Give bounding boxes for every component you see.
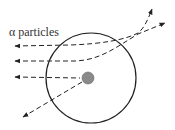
trajectory-backscatter-in — [15, 77, 80, 78]
rutherford-diagram — [0, 0, 175, 130]
trajectory-backscatter-out — [23, 82, 82, 117]
nucleus — [82, 72, 94, 84]
trajectory-top — [15, 9, 152, 46]
